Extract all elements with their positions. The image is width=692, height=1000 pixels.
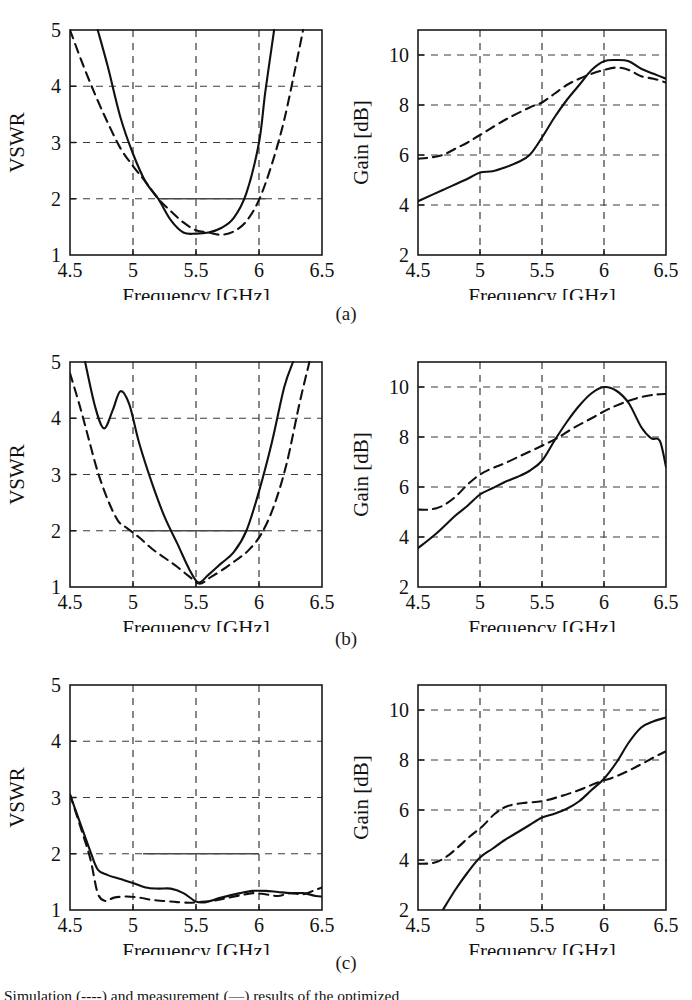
y-tick-label: 8 [399,426,409,448]
y-tick-label: 6 [399,476,409,498]
panel-b-gain: 2468104.555.566.5Frequency [GHz]Gain [dB… [346,332,692,632]
x-tick-label: 5.5 [184,259,209,281]
panel-c-vswr: 123454.555.566.5Frequency [GHz]VSWR [0,655,346,955]
x-tick-label: 5.5 [184,591,209,613]
series-simulated-dashed [70,30,303,235]
x-tick-label: 6 [599,259,609,281]
x-tick-label: 5 [475,259,485,281]
y-tick-label: 3 [51,132,61,154]
chart-c-vswr: 123454.555.566.5Frequency [GHz]VSWR [0,655,346,955]
x-tick-label: 6.5 [310,591,335,613]
x-tick-label: 6.5 [654,591,679,613]
series-measured-solid [98,30,274,234]
x-tick-label: 6.5 [654,914,679,936]
x-tick-label: 5.5 [530,591,555,613]
x-tick-label: 5 [128,259,138,281]
panel-a-vswr: 123454.555.566.5Frequency [GHz]VSWR [0,0,346,300]
y-tick-label: 2 [51,843,61,865]
y-axis-label: VSWR [5,444,29,505]
y-tick-label: 10 [389,44,409,66]
y-tick-label: 4 [51,730,61,752]
series-measured-solid [85,362,293,583]
y-tick-label: 10 [389,699,409,721]
y-tick-label: 4 [399,849,409,871]
y-tick-label: 3 [51,464,61,486]
panel-c-gain: 2468104.555.566.5Frequency [GHz]Gain [dB… [346,655,692,955]
chart-c-gain: 2468104.555.566.5Frequency [GHz]Gain [dB… [346,655,692,955]
y-tick-label: 3 [51,787,61,809]
y-axis-label: Gain [dB] [349,755,373,840]
figure-caption: Simulation (----) and measurement (—) re… [0,986,692,1000]
y-tick-label: 2 [51,188,61,210]
x-axis-label: Frequency [GHz] [122,284,270,300]
figure-row-c: 123454.555.566.5Frequency [GHz]VSWR 2468… [0,655,692,955]
x-tick-label: 5 [128,591,138,613]
y-axis-label: Gain [dB] [349,432,373,517]
x-tick-label: 6 [254,259,264,281]
y-tick-label: 6 [399,144,409,166]
subplot-label-a: (a) [0,303,692,325]
x-tick-label: 4.5 [58,914,83,936]
y-tick-label: 8 [399,94,409,116]
y-tick-label: 4 [51,407,61,429]
x-tick-label: 5 [475,591,485,613]
y-tick-label: 5 [51,19,61,41]
y-tick-label: 5 [51,351,61,373]
x-tick-label: 6 [599,914,609,936]
x-tick-label: 5.5 [530,914,555,936]
figure-row-b: 123454.555.566.5Frequency [GHz]VSWR 2468… [0,332,692,632]
series-measured-solid [418,60,666,201]
y-axis-label: VSWR [5,112,29,173]
subplot-label-c: (c) [0,952,692,974]
y-axis-label: Gain [dB] [349,100,373,185]
y-tick-label: 8 [399,749,409,771]
panel-b-vswr: 123454.555.566.5Frequency [GHz]VSWR [0,332,346,632]
x-tick-label: 6 [254,914,264,936]
y-tick-label: 2 [51,520,61,542]
x-tick-label: 6 [254,591,264,613]
x-tick-label: 4.5 [58,259,83,281]
x-tick-label: 5.5 [530,259,555,281]
chart-b-gain: 2468104.555.566.5Frequency [GHz]Gain [dB… [346,332,692,632]
y-tick-label: 5 [51,674,61,696]
y-tick-label: 4 [51,75,61,97]
subplot-label-b: (b) [0,628,692,650]
x-tick-label: 4.5 [58,591,83,613]
x-tick-label: 4.5 [406,914,431,936]
x-tick-label: 5.5 [184,914,209,936]
x-tick-label: 6 [599,591,609,613]
y-tick-label: 4 [399,194,409,216]
x-tick-label: 6.5 [310,259,335,281]
x-tick-label: 6.5 [654,259,679,281]
series-measured-solid [443,718,666,911]
chart-a-vswr: 123454.555.566.5Frequency [GHz]VSWR [0,0,346,300]
x-tick-label: 4.5 [406,591,431,613]
x-tick-label: 5 [128,914,138,936]
y-tick-label: 4 [399,526,409,548]
figure-row-a: 123454.555.566.5Frequency [GHz]VSWR 2468… [0,0,692,300]
y-tick-label: 10 [389,376,409,398]
y-tick-label: 6 [399,799,409,821]
x-tick-label: 6.5 [310,914,335,936]
x-tick-label: 5 [475,914,485,936]
series-simulated-dashed [70,362,309,584]
y-axis-label: VSWR [5,767,29,828]
chart-a-gain: 2468104.555.566.5Frequency [GHz]Gain [dB… [346,0,692,300]
panel-a-gain: 2468104.555.566.5Frequency [GHz]Gain [dB… [346,0,692,300]
x-tick-label: 4.5 [406,259,431,281]
figure-page: 123454.555.566.5Frequency [GHz]VSWR 2468… [0,0,692,1000]
x-axis-label: Frequency [GHz] [468,284,616,300]
chart-b-vswr: 123454.555.566.5Frequency [GHz]VSWR [0,332,346,632]
